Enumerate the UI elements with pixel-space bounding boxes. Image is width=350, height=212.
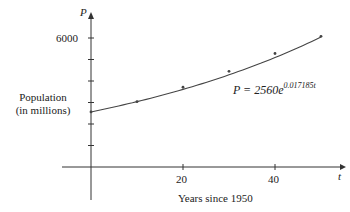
x-tick-label-20: 20: [176, 173, 187, 185]
y-axis-arrow-icon: [88, 12, 94, 19]
data-point: [274, 52, 277, 55]
y-axis-label-line2: (in millions): [4, 104, 82, 117]
x-axis-symbol: t: [338, 170, 341, 182]
data-point: [182, 86, 185, 89]
data-point: [320, 35, 323, 38]
y-axis-label: Population (in millions): [4, 91, 82, 117]
y-axis-label-line1: Population: [4, 91, 82, 104]
equation-exponent: 0.017185t: [284, 81, 316, 90]
x-axis-label: Years since 1950: [178, 192, 253, 204]
y-tick-label-6000: 6000: [56, 32, 78, 44]
model-curve: [91, 37, 321, 112]
data-point: [228, 70, 231, 73]
y-axis-symbol: P: [80, 6, 87, 18]
model-equation: P = 2560e0.017185t: [233, 80, 316, 96]
data-point: [136, 100, 139, 103]
axes: [62, 12, 346, 200]
data-points: [90, 35, 323, 113]
data-point: [90, 111, 93, 114]
equation-base: P = 2560e: [233, 83, 284, 97]
x-tick-label-40: 40: [268, 173, 279, 185]
